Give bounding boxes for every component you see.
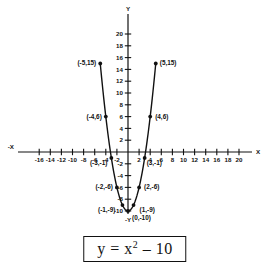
y-tick-label: 8 [120, 101, 124, 108]
coordinate-plane: -16-14-12-10-8-6-4-22468101214161820 201… [0, 0, 270, 226]
data-point [115, 186, 119, 190]
y-tick-label: -4 [117, 172, 123, 179]
x-tick-label: -14 [46, 156, 56, 163]
x-tick-label: -10 [68, 156, 78, 163]
data-point [104, 115, 108, 119]
data-point-label: (2,-6) [144, 183, 159, 191]
x-tick-label: 16 [213, 156, 220, 163]
axes-group [18, 14, 252, 214]
x-axis-positive-label: X [256, 148, 261, 155]
data-point-label: (-4,6) [87, 113, 102, 121]
data-point-label: (-3,-1) [90, 159, 107, 167]
data-point [109, 156, 113, 160]
data-point-label: (5,15) [160, 59, 177, 67]
data-point-label: (-5,15) [77, 59, 96, 67]
y-axis-positive-label: Y [126, 5, 131, 12]
x-tick-label: -12 [57, 156, 67, 163]
x-tick-label: 12 [191, 156, 198, 163]
x-axis-negative-label: -X [8, 143, 15, 150]
data-point-label: (-1,-9) [98, 206, 115, 214]
x-tick-label: 18 [224, 156, 231, 163]
data-point-label: (3,-1) [147, 159, 162, 167]
data-point [148, 115, 152, 119]
x-tick-label: -8 [81, 156, 87, 163]
y-tick-label: -2 [117, 160, 123, 167]
data-point [98, 62, 102, 66]
y-tick-label: 20 [116, 30, 123, 37]
data-point [121, 203, 125, 207]
y-tick-label: 4 [120, 125, 124, 132]
x-tick-label: 10 [180, 156, 187, 163]
x-tick-label: 8 [171, 156, 175, 163]
data-point-label: (0,-10) [132, 214, 151, 222]
y-tick-label: 12 [116, 77, 123, 84]
data-point-label: (-2,-6) [95, 183, 112, 191]
data-point-label: (1,-9) [140, 206, 155, 214]
data-point [154, 62, 158, 66]
x-tick-label: 14 [202, 156, 209, 163]
y-tick-label: 14 [116, 66, 123, 73]
y-tick-label: -10 [114, 207, 124, 214]
y-tick-label: 18 [116, 42, 123, 49]
y-tick-label: 16 [116, 54, 123, 61]
x-tick-label: 2 [137, 156, 141, 163]
data-point-label: (4,6) [155, 113, 168, 121]
equation-text: y = x2 – 10 [97, 240, 172, 257]
x-tick-label: -16 [35, 156, 45, 163]
data-point [126, 209, 130, 213]
y-tick-label: 10 [116, 89, 123, 96]
data-point [132, 203, 136, 207]
parabola-figure: -16-14-12-10-8-6-4-22468101214161820 201… [0, 0, 270, 274]
y-axis-negative-label: -Y [125, 216, 132, 223]
y-tick-label: 6 [120, 113, 124, 120]
x-tick-label: 20 [236, 156, 243, 163]
y-tick-label: 2 [120, 136, 124, 143]
x-axis-tick-labels: -16-14-12-10-8-6-4-22468101214161820 [35, 156, 243, 163]
equation-box: y = x2 – 10 [83, 236, 186, 262]
data-point [137, 186, 141, 190]
